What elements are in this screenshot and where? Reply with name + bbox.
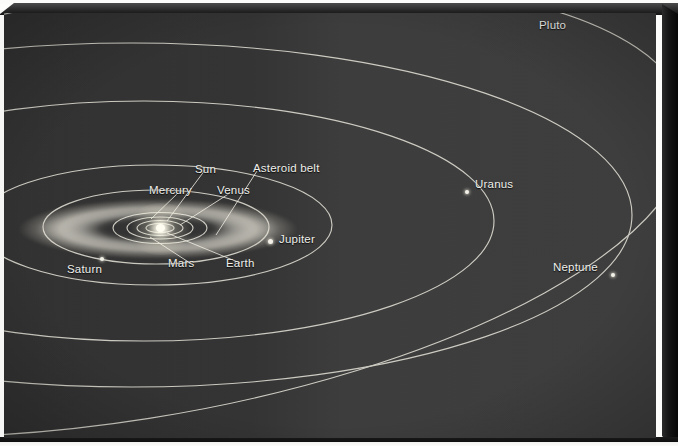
neptune-dot[interactable] bbox=[611, 273, 615, 277]
label-mercury: Mercury bbox=[149, 184, 192, 196]
label-asteroid-belt: Asteroid belt bbox=[253, 162, 320, 174]
label-saturn: Saturn bbox=[67, 263, 102, 275]
starfield-plate: Sun Mercury Venus Asteroid belt Mars Ear… bbox=[4, 13, 656, 438]
label-neptune: Neptune bbox=[553, 261, 598, 273]
label-pluto: Pluto bbox=[539, 19, 566, 31]
leader-mercury bbox=[151, 193, 178, 219]
plate-bevel-bottom bbox=[0, 437, 678, 446]
neptune-orbit bbox=[4, 43, 632, 387]
venus-orbit bbox=[137, 221, 183, 236]
plate-bevel-right bbox=[662, 4, 678, 444]
uranus-orbit bbox=[4, 101, 494, 341]
label-jupiter: Jupiter bbox=[279, 233, 315, 245]
leader-venus bbox=[180, 193, 230, 225]
label-venus: Venus bbox=[217, 184, 250, 196]
label-uranus: Uranus bbox=[475, 178, 513, 190]
jupiter-orbit bbox=[43, 190, 269, 264]
leader-asteroid-belt bbox=[216, 171, 257, 235]
label-mars: Mars bbox=[168, 257, 194, 269]
solar-system-figure: Sun Mercury Venus Asteroid belt Mars Ear… bbox=[0, 0, 678, 446]
mercury-orbit bbox=[146, 224, 174, 233]
pluto-orbit bbox=[4, 13, 656, 438]
jupiter-dot[interactable] bbox=[268, 239, 273, 244]
orbit-lines bbox=[4, 13, 656, 438]
saturn-dot[interactable] bbox=[100, 257, 104, 261]
uranus-dot[interactable] bbox=[465, 190, 469, 194]
label-earth: Earth bbox=[226, 257, 255, 269]
label-sun: Sun bbox=[195, 163, 216, 175]
